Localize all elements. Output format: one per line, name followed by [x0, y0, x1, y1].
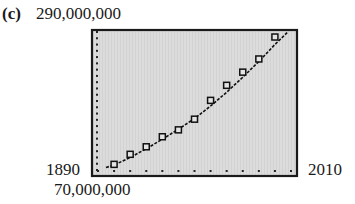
- y-tick-dot: [96, 94, 98, 96]
- y-tick-dot: [96, 156, 98, 158]
- y-tick-dot: [96, 62, 98, 64]
- y-tick-dot: [96, 56, 98, 58]
- x-tick-dot: [226, 170, 228, 172]
- data-point-marker: [111, 161, 117, 167]
- y-tick-dot: [96, 31, 98, 33]
- y-tick-dot: [96, 44, 98, 46]
- data-point-marker: [192, 116, 198, 122]
- x-tick-dot: [145, 170, 147, 172]
- plot-frame: [92, 30, 297, 176]
- x-tick-dot: [194, 170, 196, 172]
- x-tick-dot: [210, 170, 212, 172]
- data-point-marker: [175, 127, 181, 133]
- y-tick-dot: [96, 144, 98, 146]
- data-point-marker: [159, 134, 165, 140]
- y-tick-dot: [96, 125, 98, 127]
- y-tick-dot: [96, 81, 98, 83]
- x-tick-dot: [242, 170, 244, 172]
- data-point-marker: [240, 69, 246, 75]
- y-tick-dot: [96, 50, 98, 52]
- data-point-marker: [256, 56, 262, 62]
- y-tick-dot: [96, 138, 98, 140]
- data-point-marker: [208, 97, 214, 103]
- x-tick-dot: [97, 170, 99, 172]
- x-tick-dot: [290, 170, 292, 172]
- data-point-marker: [143, 144, 149, 150]
- data-point-marker: [127, 151, 133, 157]
- x-tick-dot: [258, 170, 260, 172]
- data-point-marker: [272, 34, 278, 40]
- y-tick-dot: [96, 119, 98, 121]
- y-tick-dot: [96, 113, 98, 115]
- x-tick-dot: [177, 170, 179, 172]
- x-tick-dot: [129, 170, 131, 172]
- data-point-marker: [224, 82, 230, 88]
- y-tick-dot: [96, 87, 98, 89]
- x-tick-dot: [113, 170, 115, 172]
- x-tick-dot: [161, 170, 163, 172]
- y-tick-dot: [96, 150, 98, 152]
- y-tick-dot: [96, 106, 98, 108]
- y-tick-dot: [96, 75, 98, 77]
- x-tick-dot: [274, 170, 276, 172]
- y-tick-dot: [96, 69, 98, 71]
- y-tick-dot: [96, 100, 98, 102]
- y-tick-dot: [96, 163, 98, 165]
- y-tick-dot: [96, 37, 98, 39]
- plot-area: [0, 0, 355, 204]
- y-tick-dot: [96, 131, 98, 133]
